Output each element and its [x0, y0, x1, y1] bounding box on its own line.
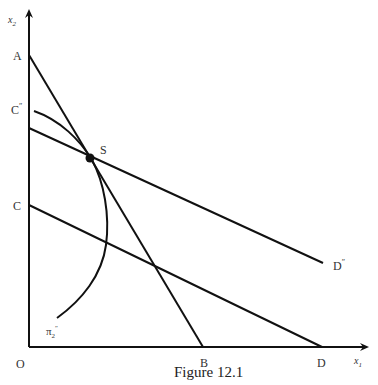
x-axis-label: x1: [354, 356, 362, 366]
line-ab: [29, 55, 203, 347]
point-s-label: S: [100, 144, 107, 156]
isoprofit-curve: [34, 111, 107, 318]
point-a-label: A: [13, 50, 22, 62]
point-c2-label: C″: [11, 104, 22, 116]
origin-label: O: [16, 358, 25, 370]
stackelberg-figure: x2 x1 O A C″ C S B D D″ π2″ Figure 12.1: [0, 0, 378, 385]
y-axis-label: x2: [8, 15, 16, 25]
line-c2-d2: [29, 128, 323, 263]
line-cd: [29, 205, 322, 347]
point-s-marker: [86, 154, 95, 163]
isoprofit-curve-label: π2″: [46, 326, 58, 337]
figure-caption: Figure 12.1: [174, 365, 243, 380]
point-d-label: D: [317, 357, 326, 369]
point-c-label: C: [13, 200, 21, 212]
point-d2-label: D″: [333, 260, 345, 272]
